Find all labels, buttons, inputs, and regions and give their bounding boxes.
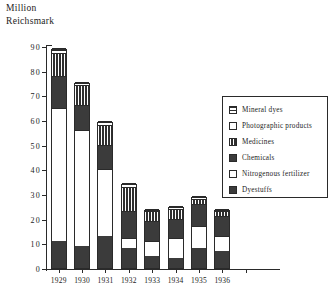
y-axis-tick-label: 0: [36, 265, 41, 274]
chart-legend: Mineral dyesPhotographic productsMedicin…: [222, 96, 328, 198]
legend-item-label: Dyestuffs: [242, 186, 272, 194]
bar-segment-mineral-dyes: [192, 196, 206, 197]
bar-1933: [144, 210, 160, 269]
bar-segment-medicines: [75, 85, 89, 105]
legend-item: Photographic products: [229, 118, 327, 134]
legend-item-label: Mineral dyes: [242, 106, 283, 114]
bar-segment-chemicals: [215, 216, 229, 236]
legend-item-label: Photographic products: [242, 122, 312, 130]
legend-swatch-icon: [229, 170, 237, 178]
y-axis-tick-label: 60: [31, 117, 41, 126]
x-axis-tick: [59, 269, 60, 273]
bar-segment-photographic-products: [169, 207, 183, 208]
x-axis-tick: [105, 269, 106, 273]
bar-segment-mineral-dyes: [75, 82, 89, 83]
bar-segment-mineral-dyes: [98, 121, 112, 122]
x-axis-tick-label: 1936: [214, 276, 230, 285]
bar-segment-photographic-products: [145, 210, 159, 211]
x-axis-tick: [82, 269, 83, 273]
legend-item: Nitrogenous fertilizer: [229, 166, 327, 182]
bar-segment-photographic-products: [52, 50, 66, 54]
y-axis-tick: [42, 195, 47, 196]
bar-segment-medicines: [98, 125, 112, 145]
y-axis-tick: [42, 244, 47, 245]
bar-segment-dyestuffs: [98, 236, 112, 268]
x-axis-tick-label: 1934: [168, 276, 184, 285]
y-axis-tick-label: 50: [31, 141, 41, 150]
y-axis-tick: [42, 220, 47, 221]
bar-segment-mineral-dyes: [169, 206, 183, 207]
bar-1929: [51, 49, 67, 269]
bar-segment-nitrogenous-fertilizer: [192, 226, 206, 248]
y-axis-tick-label: 40: [31, 166, 41, 175]
bar-1934: [168, 207, 184, 269]
x-axis-tick: [129, 269, 130, 273]
bar-segment-dyestuffs: [215, 251, 229, 268]
legend-swatch-icon: [229, 106, 237, 114]
bar-segment-chemicals: [145, 221, 159, 241]
stacked-bar-chart: Million Reichsmark 0102030405060708090 M…: [0, 0, 332, 302]
bar-segment-dyestuffs: [192, 248, 206, 268]
x-axis-tick: [199, 269, 200, 273]
bar-segment-medicines: [192, 199, 206, 204]
bar-segment-medicines: [52, 53, 66, 75]
bar-segment-photographic-products: [75, 83, 89, 85]
y-axis-tick: [42, 146, 47, 147]
bar-segment-chemicals: [52, 76, 66, 108]
legend-item-label: Chemicals: [242, 154, 275, 162]
y-axis-tick: [42, 47, 47, 48]
y-axis-tick-label: 10: [31, 240, 41, 249]
x-axis-tick: [152, 269, 153, 273]
bar-segment-dyestuffs: [145, 256, 159, 268]
y-axis-tick: [42, 72, 47, 73]
y-axis-tick-label: 80: [31, 67, 41, 76]
y-axis-tick-label: 90: [31, 43, 41, 52]
x-axis-tick-label: 1932: [121, 276, 137, 285]
x-axis-tick: [222, 269, 223, 273]
y-axis-title: Million Reichsmark: [6, 2, 54, 28]
bar-segment-medicines: [122, 187, 136, 212]
y-axis-title-line-1: Million: [6, 2, 54, 15]
bar-segment-dyestuffs: [122, 248, 136, 268]
bar-segment-dyestuffs: [169, 258, 183, 268]
bar-segment-medicines: [215, 211, 229, 216]
bar-segment-photographic-products: [215, 210, 229, 211]
y-axis-tick-label: 20: [31, 215, 41, 224]
y-axis-top-cap: [46, 45, 52, 46]
bar-1931: [97, 122, 113, 269]
x-axis-tick-label: 1935: [191, 276, 207, 285]
bar-segment-nitrogenous-fertilizer: [98, 169, 112, 236]
bar-segment-mineral-dyes: [52, 48, 66, 49]
y-axis-tick: [42, 170, 47, 171]
bar-segment-mineral-dyes: [122, 183, 136, 184]
legend-item-label: Medicines: [242, 138, 274, 146]
y-axis-tick-label: 30: [31, 191, 41, 200]
bar-segment-mineral-dyes: [145, 209, 159, 210]
legend-swatch-icon: [229, 122, 237, 130]
bar-segment-chemicals: [169, 219, 183, 239]
bar-segment-nitrogenous-fertilizer: [52, 108, 66, 241]
y-axis-tick: [42, 269, 47, 270]
bar-1935: [191, 197, 207, 269]
bar-segment-photographic-products: [98, 122, 112, 124]
bar-1936: [214, 210, 230, 269]
legend-swatch-icon: [229, 154, 237, 162]
bar-segment-nitrogenous-fertilizer: [145, 241, 159, 256]
bar-1930: [74, 83, 90, 269]
bar-segment-chemicals: [98, 145, 112, 170]
bar-segment-nitrogenous-fertilizer: [75, 130, 89, 246]
bar-segment-chemicals: [192, 204, 206, 226]
bar-segment-dyestuffs: [52, 241, 66, 268]
y-axis-tick: [42, 121, 47, 122]
legend-swatch-icon: [229, 138, 237, 146]
legend-item: Chemicals: [229, 150, 327, 166]
legend-swatch-icon: [229, 186, 237, 194]
bar-segment-nitrogenous-fertilizer: [122, 238, 136, 248]
bar-segment-photographic-products: [122, 184, 136, 186]
x-axis-tick-label: 1931: [98, 276, 114, 285]
bar-segment-mineral-dyes: [215, 209, 229, 210]
legend-item: Medicines: [229, 134, 327, 150]
legend-item-label: Nitrogenous fertilizer: [242, 170, 310, 178]
x-axis-tick: [246, 269, 247, 273]
x-axis-tick-label: 1933: [144, 276, 160, 285]
